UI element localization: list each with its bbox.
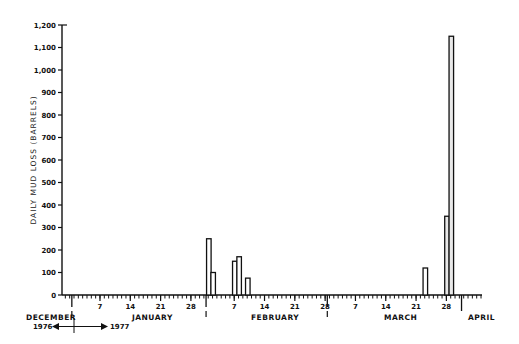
month-january: JANUARY [131, 313, 173, 322]
y-tick-label: 600 [41, 157, 56, 165]
x-tick-label: 28 [442, 303, 452, 311]
bar [423, 268, 428, 295]
month-labels: DECEMBER JANUARY FEBRUARY MARCH APRIL [26, 313, 495, 322]
x-tick-label: 14 [381, 303, 391, 311]
y-tick-label: 200 [41, 247, 56, 255]
month-february: FEBRUARY [251, 313, 299, 322]
mud-loss-chart: 01002003004005006007008009001,0001,1001,… [0, 0, 519, 344]
month-march: MARCH [384, 313, 417, 322]
y-tick-label: 900 [41, 89, 56, 97]
year-1976: 1976 [33, 323, 53, 331]
y-axis: 01002003004005006007008009001,0001,1001,… [34, 22, 67, 300]
bar [237, 257, 242, 295]
y-tick-label: 700 [41, 134, 56, 142]
y-tick-label: 400 [41, 202, 56, 210]
y-tick-label: 1,100 [34, 44, 56, 52]
y-tick-label: 1,200 [34, 22, 56, 30]
x-tick-label: 14 [125, 303, 135, 311]
x-tick-label: 7 [232, 303, 237, 311]
x-tick-label: 28 [320, 303, 330, 311]
month-december: DECEMBER [26, 313, 76, 322]
month-april: APRIL [468, 313, 495, 322]
bars [207, 36, 454, 295]
x-tick-label: 7 [353, 303, 358, 311]
bar [246, 278, 251, 295]
arrow-right-icon [101, 323, 108, 330]
x-tick-label: 21 [411, 303, 421, 311]
bar [449, 36, 454, 295]
year-1977: 1977 [110, 323, 130, 331]
y-tick-label: 300 [41, 224, 56, 232]
y-tick-label: 0 [51, 292, 56, 300]
x-tick-label: 14 [260, 303, 270, 311]
y-axis-label: DAILY MUD LOSS (BARRELS) [29, 95, 38, 224]
y-tick-label: 500 [41, 179, 56, 187]
y-tick-label: 100 [41, 269, 56, 277]
y-tick-label: 1,000 [34, 67, 56, 75]
x-tick-label: 28 [186, 303, 196, 311]
x-tick-label: 21 [156, 303, 166, 311]
bar [211, 273, 216, 296]
x-tick-label: 21 [290, 303, 300, 311]
arrow-left-icon [52, 323, 59, 330]
x-tick-label: 7 [98, 303, 103, 311]
y-tick-label: 800 [41, 112, 56, 120]
